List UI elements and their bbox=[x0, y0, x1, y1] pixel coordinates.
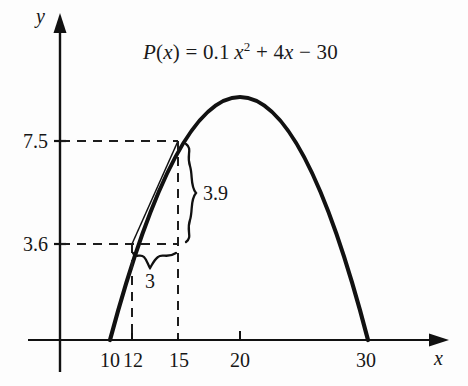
rise-brace bbox=[186, 144, 196, 242]
rise-brace-label: 3.9 bbox=[203, 183, 228, 203]
secant-line bbox=[132, 141, 178, 244]
x-tick-label-20: 20 bbox=[230, 350, 250, 370]
x-axis-name: x bbox=[434, 348, 443, 368]
parabola-figure: P(x) = 0.1 x2 + 4x − 30 7.5 3.6 10 12 15… bbox=[0, 0, 468, 386]
run-brace-label: 3 bbox=[145, 271, 155, 291]
y-tick-label-3-6: 3.6 bbox=[10, 234, 48, 254]
equation-fn-name: P bbox=[143, 40, 156, 64]
run-brace bbox=[133, 253, 176, 268]
y-axis-name: y bbox=[36, 6, 45, 26]
x-tick-label-12: 12 bbox=[123, 350, 143, 370]
equation-minus-operator: − bbox=[294, 40, 317, 64]
y-axis bbox=[54, 13, 67, 372]
equation-quadratic-coefficient: 0.1 bbox=[203, 40, 230, 64]
equation-plus-operator: + bbox=[250, 40, 273, 64]
equation-linear-coefficient: 4 bbox=[273, 40, 284, 64]
equation-close-paren: ) bbox=[173, 40, 180, 64]
y-tick-label-7-5: 7.5 bbox=[10, 131, 48, 151]
equation-lhs-variable: x bbox=[163, 40, 173, 64]
x-tick-label-30: 30 bbox=[356, 350, 376, 370]
x-tick-label-10: 10 bbox=[100, 350, 120, 370]
equation-quadratic-variable: x bbox=[234, 40, 244, 64]
parabola-curve bbox=[110, 97, 368, 340]
function-equation: P(x) = 0.1 x2 + 4x − 30 bbox=[143, 40, 338, 65]
equation-equals: = bbox=[180, 40, 203, 64]
x-axis-ticks bbox=[132, 331, 240, 340]
x-tick-label-15: 15 bbox=[169, 350, 189, 370]
x-axis bbox=[28, 334, 449, 347]
equation-linear-variable: x bbox=[284, 40, 294, 64]
equation-constant: 30 bbox=[317, 40, 338, 64]
